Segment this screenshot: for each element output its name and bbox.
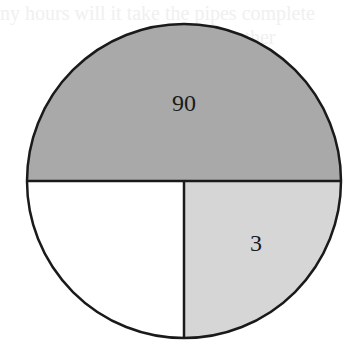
bottom-left-section [27,181,184,338]
bottom-right-section [184,181,341,338]
pie-diagram: 90 3 [0,0,359,355]
bottom-right-section-label: 3 [250,230,262,256]
top-section-label: 90 [172,90,196,116]
